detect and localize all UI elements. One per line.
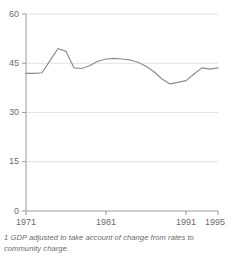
x-tick-label-1995: 1995 [198,218,232,227]
gridlines [26,14,218,162]
data-line-gge-share-of-gdp [26,48,218,83]
y-tick-label-60: 60 [0,10,19,19]
chart-footnote: 1 GDP adjusted to take account of change… [4,232,230,255]
y-tick-label-45: 45 [0,59,19,68]
y-axis-ticks [22,14,26,211]
y-tick-label-0: 0 [0,207,19,216]
y-tick-label-30: 30 [0,108,19,117]
x-tick-label-1981: 1981 [86,218,126,227]
plot-area [0,0,233,228]
x-tick-label-1971: 1971 [6,218,46,227]
x-axis-ticks [26,211,218,215]
y-tick-label-15: 15 [0,157,19,166]
line-chart-svg [0,0,233,228]
chart-figure: 60 45 30 15 0 1971 1981 1991 1995 1 GDP … [0,0,233,261]
